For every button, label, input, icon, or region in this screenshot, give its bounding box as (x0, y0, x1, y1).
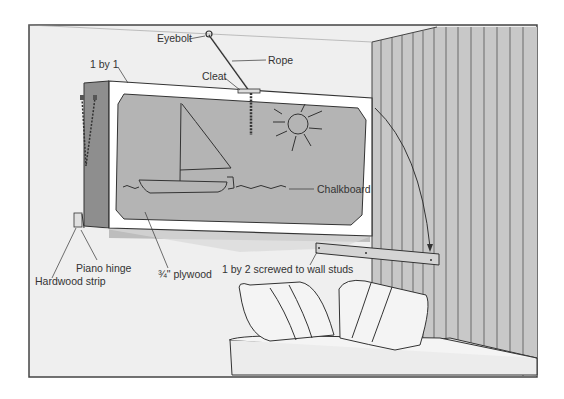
label-plywood: ¾" plywood (158, 268, 212, 280)
chalkboard-face (116, 94, 366, 225)
label-cleat: Cleat (202, 70, 227, 82)
label-one-by-one: 1 by 1 (90, 58, 119, 70)
label-hardwood-strip: Hardwood strip (35, 275, 106, 287)
label-rope: Rope (268, 54, 293, 66)
label-piano-hinge: Piano hinge (76, 262, 131, 274)
label-eyebolt: Eyebolt (157, 32, 192, 44)
diagram-figure: Eyebolt Rope Cleat 1 by 1 Chalkboard Pia… (0, 0, 564, 399)
label-one-by-two: 1 by 2 screwed to wall studs (222, 263, 353, 275)
hardwood-strip (74, 213, 82, 227)
cleat (238, 89, 260, 93)
board-side (84, 81, 109, 228)
label-chalkboard: Chalkboard (317, 183, 371, 195)
